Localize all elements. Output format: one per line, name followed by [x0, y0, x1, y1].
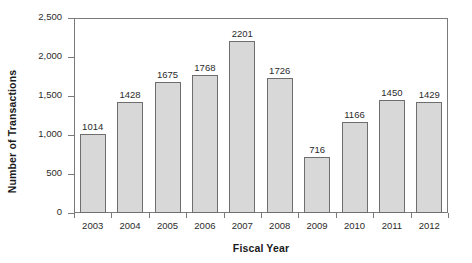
bar-value-label: 2201 [217, 28, 267, 39]
x-axis-tick-mark [298, 213, 299, 218]
x-axis-tick-mark [186, 213, 187, 218]
bar [80, 134, 106, 213]
bar-value-label: 1166 [330, 109, 380, 120]
bar [379, 100, 405, 213]
y-axis-tick-label: 2,000 [38, 50, 62, 61]
x-axis-tick-mark [74, 213, 75, 218]
x-axis-title: Fiscal Year [74, 242, 448, 254]
bar-value-label: 1428 [105, 89, 155, 100]
bar [416, 102, 442, 213]
y-axis-tick-label: 1,000 [38, 128, 62, 139]
bar-value-label: 1014 [68, 121, 118, 132]
bar [267, 78, 293, 213]
plot-area [74, 18, 448, 213]
x-axis-tick-mark [149, 213, 150, 218]
bar [192, 75, 218, 213]
x-axis-tick-mark [336, 213, 337, 218]
bar-value-label: 1726 [255, 65, 305, 76]
bar [229, 41, 255, 213]
x-axis-tick-mark [411, 213, 412, 218]
bar-value-label: 1768 [180, 62, 230, 73]
x-axis-tick-mark [111, 213, 112, 218]
y-axis-tick-label: 2,500 [38, 11, 62, 22]
bar [304, 157, 330, 213]
bar-chart: Number of Transactions 05001,0001,5002,0… [0, 0, 472, 263]
y-axis-title: Number of Transactions [0, 0, 24, 263]
x-axis-tick-mark [448, 213, 449, 218]
y-axis-tick-label: 500 [46, 167, 62, 178]
bar-value-label: 716 [292, 144, 342, 155]
x-axis-tick-mark [373, 213, 374, 218]
bar [155, 82, 181, 213]
y-axis-tick-label: 1,500 [38, 89, 62, 100]
x-axis-tick-label: 2012 [404, 220, 454, 231]
x-axis-tick-mark [224, 213, 225, 218]
bar [342, 122, 368, 213]
x-axis-tick-mark [261, 213, 262, 218]
bar [117, 102, 143, 213]
y-axis-tick-label: 0 [57, 206, 62, 217]
bar-value-label: 1429 [404, 89, 454, 100]
